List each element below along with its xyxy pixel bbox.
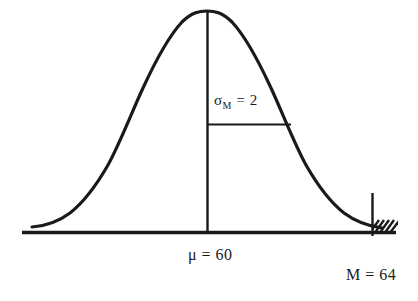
sample-mean-label: M = 64	[346, 266, 396, 284]
mean-label: μ = 60	[188, 246, 233, 264]
sigma-value: = 2	[237, 92, 258, 108]
sigma-subscript: M	[223, 100, 232, 111]
standard-error-label: σM= 2	[214, 92, 258, 111]
sigma-symbol: σ	[214, 92, 223, 108]
